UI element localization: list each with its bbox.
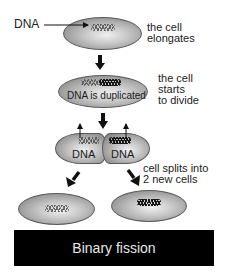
arrow-down-icon xyxy=(98,113,108,129)
diagram-title: Binary fission xyxy=(72,240,155,256)
arrow-diagonal-icon xyxy=(66,172,79,187)
title-banner: Binary fission xyxy=(14,230,214,266)
arrow-diagonal-icon xyxy=(128,170,140,186)
arrow-down-icon xyxy=(95,55,105,70)
